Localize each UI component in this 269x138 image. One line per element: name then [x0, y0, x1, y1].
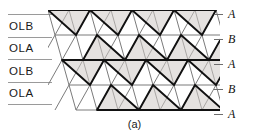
plane-label-2: A — [228, 58, 235, 70]
plane-label-3: B — [228, 83, 235, 95]
dash-icon — [214, 64, 223, 65]
plane-row-3: B — [214, 83, 235, 95]
dash-icon — [214, 14, 223, 15]
dash-icon — [214, 114, 223, 115]
plane-label-1: B — [228, 33, 235, 45]
left-rule-4 — [8, 104, 52, 105]
triangular-lattice — [48, 10, 220, 120]
figure-caption: (a) — [0, 118, 269, 130]
figure-panel: OLB OLA OLB OLA A B A B A (a) — [0, 0, 269, 138]
dash-icon — [214, 39, 223, 40]
plane-row-0: A — [214, 8, 235, 20]
dash-icon — [214, 89, 223, 90]
plane-label-0: A — [228, 8, 235, 20]
plane-row-2: A — [214, 58, 235, 70]
plane-row-1: B — [214, 33, 235, 45]
